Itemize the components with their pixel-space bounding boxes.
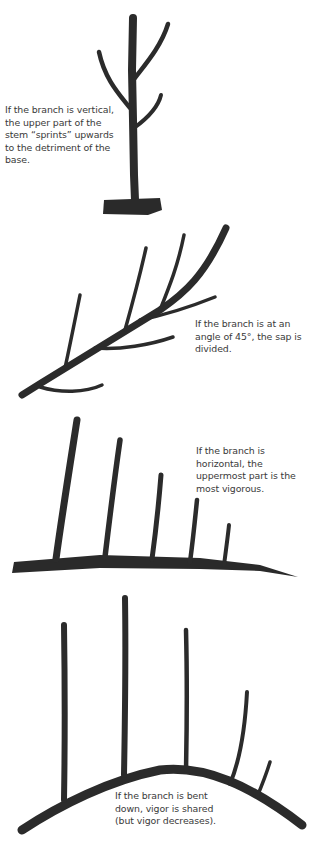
caption-bent-down: If the branch is bent down, vigor is sha…: [115, 790, 227, 828]
figure-bent-branch: If the branch is bent down, vigor is sha…: [0, 590, 313, 844]
caption-45-degree: If the branch is at an angle of 45°, the…: [195, 318, 307, 356]
figure-vertical-branch: If the branch is vertical, the upper par…: [0, 0, 313, 215]
45-degree-branch-drawing: [0, 215, 313, 410]
figure-horizontal-branch: If the branch is horizontal, the uppermo…: [0, 405, 313, 590]
horizontal-branch-drawing: [0, 405, 313, 590]
caption-horizontal: If the branch is horizontal, the uppermo…: [196, 445, 308, 495]
figure-45-degree-branch: If the branch is at an angle of 45°, the…: [0, 215, 313, 410]
caption-vertical: If the branch is vertical, the upper par…: [5, 104, 117, 167]
